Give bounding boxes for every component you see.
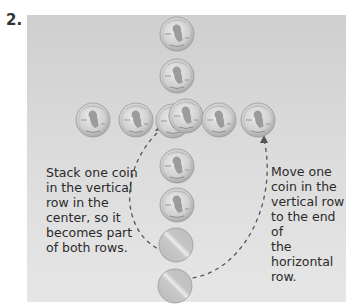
left-line: becomes part — [46, 225, 166, 240]
left-line: row in the — [46, 195, 166, 210]
right-line: coin in the — [271, 179, 351, 194]
left-line: center, so it — [46, 210, 166, 225]
right-line: vertical row — [271, 194, 351, 209]
move-arrow — [192, 140, 267, 278]
right-instruction: Move one coin in the vertical row to the… — [271, 164, 351, 284]
left-instruction: Stack one coin in the vertical row in th… — [46, 165, 166, 255]
left-line: in the vertical — [46, 180, 166, 195]
right-line: row. — [271, 269, 351, 284]
left-line: of both rows. — [46, 240, 166, 255]
right-line: the horizontal — [271, 239, 351, 269]
left-line: Stack one coin — [46, 165, 166, 180]
right-line: to the end of — [271, 209, 351, 239]
right-line: Move one — [271, 164, 351, 179]
